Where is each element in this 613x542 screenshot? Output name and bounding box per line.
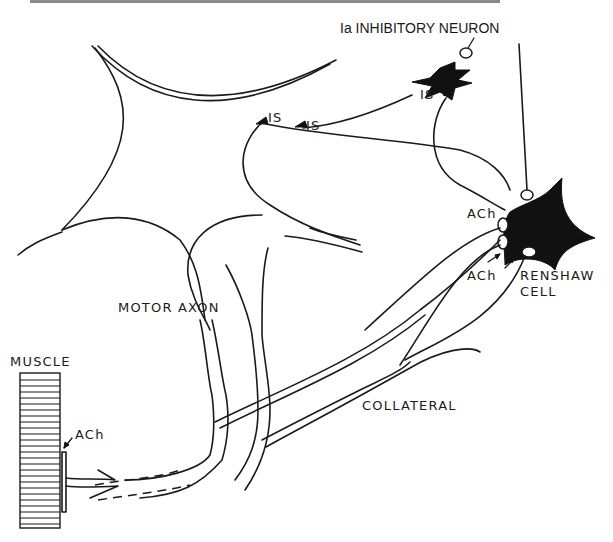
renshaw-cell: ACh ACh RENSHAW CELL: [365, 44, 595, 365]
ach-renshaw-upper-label: ACh: [467, 206, 497, 221]
renshaw-label: RENSHAW: [520, 268, 594, 283]
cropped-caption-fragment: [30, 0, 500, 3]
muscle-label: MUSCLE: [10, 354, 71, 369]
ia-inhibitory-neuron-label: Ia INHIBITORY NEURON: [340, 20, 499, 36]
ach-renshaw-lower-label: ACh: [467, 268, 497, 283]
motoneurone: [18, 46, 362, 330]
motor-axon-label: MOTOR AXON: [118, 300, 220, 315]
motor-axons: MOTOR AXON: [95, 248, 270, 500]
is-label-lower: IS: [268, 110, 283, 125]
collateral-label: COLLATERAL: [362, 398, 457, 413]
neuron-circuit-diagram: IS IS Ia INHIBITORY NEURON IS ACh ACh RE…: [0, 0, 613, 542]
initial-segment-synapses: IS IS: [256, 95, 510, 190]
muscle: MUSCLE: [10, 354, 118, 528]
ach-muscle-label: ACh: [75, 427, 105, 442]
cell-label: CELL: [520, 284, 557, 299]
is-label-inhibitory: IS: [420, 87, 435, 102]
